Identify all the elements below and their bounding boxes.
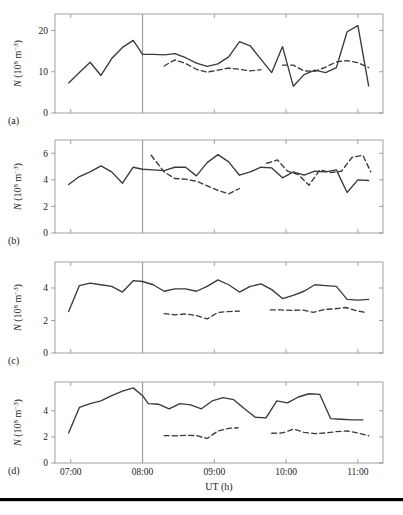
series-solid-d	[69, 388, 363, 433]
multi-panel-chart: 01020N (108 m−3)(a)0246N (108 m−3)(b)024…	[0, 0, 403, 515]
panel-c: 024	[43, 262, 383, 358]
y-axis-title-a: N (108 m−3)	[12, 40, 24, 88]
x-tick-label: 09:00	[204, 467, 226, 477]
panel-d: 024	[43, 382, 383, 468]
series-solid-b	[69, 155, 369, 193]
panel-label-d: (d)	[8, 465, 20, 477]
series-dashed-d	[272, 429, 369, 436]
panel-frame-c	[55, 262, 383, 353]
series-dashed-a	[164, 60, 261, 72]
series-dashed-a	[283, 61, 369, 72]
y-tick-label: 0	[43, 108, 48, 118]
y-tick-label: 4	[43, 283, 48, 293]
y-tick-label: 10	[39, 67, 49, 77]
y-tick-label: 0	[43, 458, 48, 468]
series-dashed-c	[164, 311, 239, 319]
series-dashed-c	[270, 308, 367, 313]
y-tick-label: 2	[43, 202, 48, 212]
bottom-rule	[0, 498, 403, 501]
panel-frame-d	[55, 382, 383, 463]
y-tick-label: 4	[43, 406, 48, 416]
y-tick-label: 6	[43, 149, 48, 159]
series-solid-c	[69, 280, 369, 312]
panel-frame-b	[55, 140, 383, 233]
x-tick-label: 07:00	[60, 467, 82, 477]
y-axis-title-b: N (108 m−3)	[12, 163, 24, 211]
y-axis-title-d: N (108 m−3)	[12, 399, 24, 447]
panel-a: 01020	[39, 14, 384, 118]
x-tick-label: 11:00	[347, 467, 369, 477]
y-tick-label: 0	[43, 228, 48, 238]
y-tick-label: 20	[39, 26, 49, 36]
figure-container: 01020N (108 m−3)(a)0246N (108 m−3)(b)024…	[0, 0, 403, 515]
y-tick-label: 4	[43, 175, 48, 185]
series-solid-a	[69, 26, 369, 87]
panel-label-a: (a)	[8, 115, 19, 127]
y-axis-title-c: N (108 m−3)	[12, 284, 24, 332]
panel-label-b: (b)	[8, 235, 20, 247]
x-axis-title: UT (h)	[205, 481, 232, 493]
x-tick-label: 10:00	[275, 467, 297, 477]
panel-b: 0246	[43, 140, 383, 238]
x-tick-label: 08:00	[132, 467, 154, 477]
series-dashed-d	[164, 428, 238, 439]
y-tick-label: 2	[43, 432, 48, 442]
series-dashed-b	[267, 155, 371, 185]
y-tick-label: 2	[43, 316, 48, 326]
y-tick-label: 0	[43, 348, 48, 358]
panel-label-c: (c)	[8, 355, 19, 367]
